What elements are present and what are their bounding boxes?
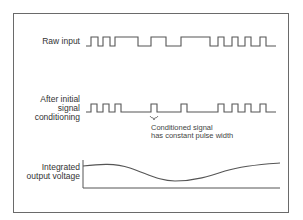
waveforms [0,0,303,220]
pulse-brace-icon [150,116,158,120]
integrated-output-curve [83,163,280,181]
raw-input-waveform [86,37,276,46]
conditioned-waveform [86,104,276,112]
